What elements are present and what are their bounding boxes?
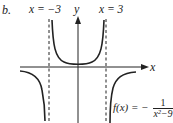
- function-prefix: f(x) = −: [113, 101, 149, 113]
- curve-left-branch: [20, 71, 45, 121]
- x-axis: [20, 64, 149, 70]
- x-axis-label: x: [150, 61, 155, 73]
- x-axis-arrow-icon: [141, 64, 149, 70]
- asymptote-left-label: x = −3: [29, 4, 61, 16]
- y-axis-arrow-icon: [75, 16, 81, 24]
- function-denominator: x²−9: [153, 109, 172, 119]
- function-label: f(x) = − 1 x²−9: [113, 98, 173, 119]
- function-fraction: 1 x²−9: [153, 98, 172, 119]
- asymptote-right-label: x = 3: [99, 4, 123, 16]
- y-axis: [75, 16, 81, 123]
- part-label: b.: [2, 4, 11, 16]
- y-axis-label: y: [74, 3, 79, 15]
